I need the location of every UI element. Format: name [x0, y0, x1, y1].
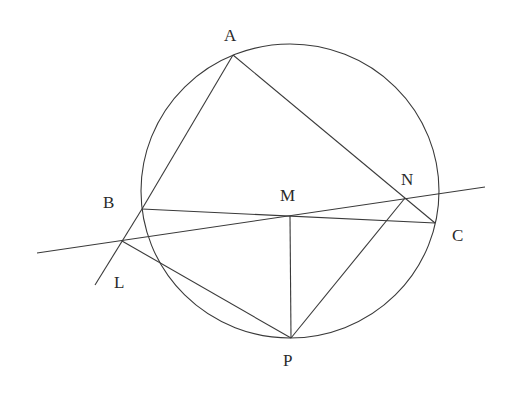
segments [122, 55, 435, 338]
label-M: M [280, 186, 295, 205]
segment-LP [122, 241, 291, 338]
label-C: C [452, 226, 463, 245]
label-P: P [283, 351, 292, 370]
geometry-diagram: ABCMNLP [0, 0, 515, 406]
segment-MP [290, 216, 291, 338]
label-L: L [114, 273, 124, 292]
label-N: N [401, 170, 413, 189]
label-A: A [224, 26, 237, 45]
label-B: B [103, 193, 114, 212]
segment-AB [142, 55, 233, 209]
